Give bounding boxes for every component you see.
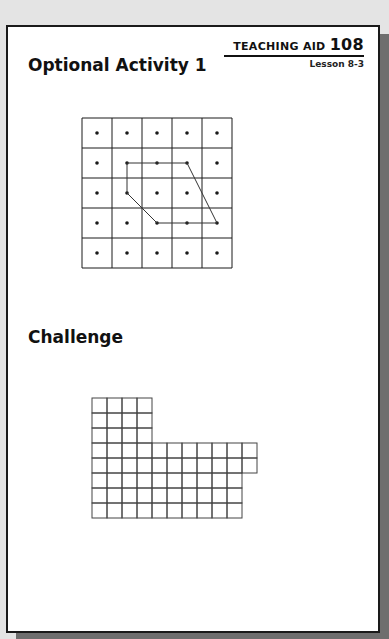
teaching-aid-number: 108 xyxy=(330,35,364,54)
teaching-aid-label: TEACHING AID xyxy=(233,40,325,53)
worksheet-page: TEACHING AID 108 Lesson 8-3 Optional Act… xyxy=(6,25,380,633)
dot-grid-figure xyxy=(81,117,235,277)
section-title-optional-activity: Optional Activity 1 xyxy=(28,55,207,75)
section-title-challenge: Challenge xyxy=(28,327,123,347)
challenge-grid-figure xyxy=(91,397,261,523)
teaching-aid-header: TEACHING AID 108 Lesson 8-3 xyxy=(224,35,364,69)
teaching-aid-title: TEACHING AID 108 xyxy=(224,35,364,57)
lesson-label: Lesson 8-3 xyxy=(224,59,364,69)
